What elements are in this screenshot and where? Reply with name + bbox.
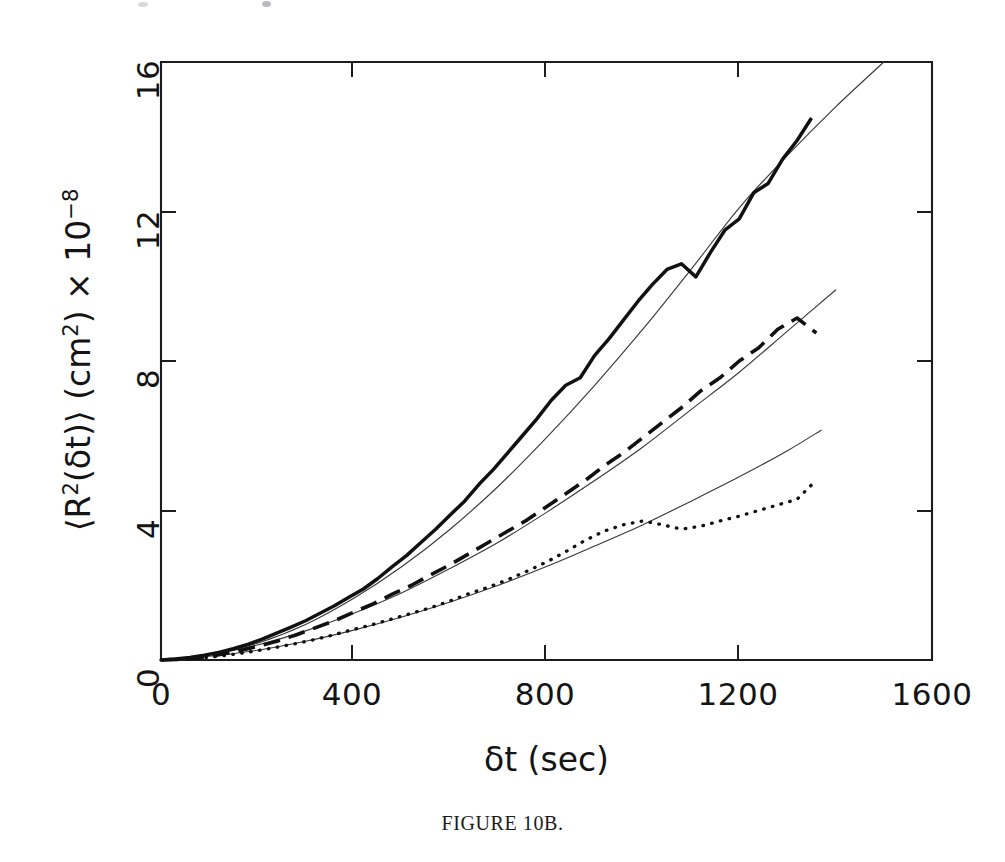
plot-canvas	[0, 0, 1005, 862]
y-title-exponent-1: 2	[58, 482, 83, 495]
y-tick-label-8: 8	[130, 369, 166, 389]
fit-curve-solid	[161, 62, 884, 660]
data-curves	[161, 62, 884, 660]
fit-curve-dashed	[161, 290, 836, 660]
data-curve-dotted	[161, 481, 816, 660]
data-curve-solid	[161, 118, 812, 660]
y-title-exponent-2: 2	[58, 323, 83, 336]
fit-curve-dotted	[161, 430, 821, 660]
x-tick-label-1200: 1200	[698, 676, 779, 712]
y-tick-label-4: 4	[130, 519, 166, 539]
y-axis-title: ⟨R2(δt)⟩ (cm2) × 10−8	[58, 50, 98, 670]
x-tick-label-400: 400	[322, 676, 383, 712]
y-tick-label-16: 16	[130, 60, 166, 100]
x-tick-label-800: 800	[515, 676, 576, 712]
figure-container: 0 400 800 1200 1600 0 4 8 12 16 ⟨R2(δt)⟩…	[0, 0, 1005, 862]
y-axis-ticks	[161, 212, 932, 511]
y-title-part-1: ⟨R	[59, 496, 98, 532]
x-axis-ticks	[352, 62, 738, 660]
x-tick-label-1600: 1600	[892, 676, 973, 712]
figure-caption: FIGURE 10B.	[0, 812, 1005, 835]
y-tick-label-0: 0	[130, 668, 166, 688]
y-tick-label-12: 12	[130, 210, 166, 250]
y-title-exponent-3: −8	[58, 189, 83, 220]
x-axis-title: δt (sec)	[161, 740, 932, 779]
y-title-part-3: ) × 10	[59, 220, 98, 324]
y-title-part-2: (δt)⟩ (cm	[59, 337, 98, 482]
data-curve-dashed	[161, 318, 816, 660]
axis-frame	[161, 62, 932, 660]
